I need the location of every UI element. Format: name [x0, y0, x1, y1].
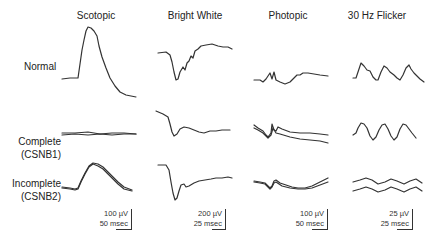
scale-bar-scotopic-time: 50 msec: [100, 219, 128, 229]
scale-bar-flicker-horizontal: [397, 229, 413, 230]
scale-bar-flicker-vertical: [412, 209, 413, 229]
scale-bar-bright-white-time: 25 msec: [194, 219, 222, 229]
trace-complete-photopic-b: [254, 128, 328, 143]
scale-bar-bright-white-vertical: [225, 209, 226, 229]
scale-bar-photopic-amplitude: 100 µV: [296, 209, 324, 219]
trace-normal-bright-white: [158, 44, 232, 80]
scale-bar-scotopic-vertical: [131, 209, 132, 229]
trace-complete-bright-white: [156, 111, 230, 136]
scale-bar-flicker-time: 25 msec: [381, 219, 409, 229]
trace-incomplete-bright-white: [158, 165, 232, 200]
scale-bar-scotopic: 100 µV 50 msec: [100, 209, 128, 229]
scale-bar-flicker: 25 µV 25 msec: [381, 209, 409, 229]
scale-bar-flicker-amplitude: 25 µV: [381, 209, 409, 219]
trace-incomplete-scotopic-b: [62, 164, 132, 191]
scale-bar-photopic-vertical: [327, 209, 328, 229]
trace-complete-flicker: [353, 123, 416, 140]
trace-incomplete-flicker-a: [353, 178, 422, 184]
scale-bar-bright-white-horizontal: [212, 229, 226, 230]
scale-bar-bright-white-amplitude: 200 µV: [194, 209, 222, 219]
trace-normal-photopic: [254, 72, 328, 84]
scale-bar-photopic-horizontal: [312, 229, 328, 230]
trace-complete-scotopic-b: [62, 134, 136, 135]
trace-normal-flicker: [353, 63, 424, 82]
trace-incomplete-flicker-b: [353, 187, 422, 192]
scale-bar-bright-white: 200 µV 25 msec: [194, 209, 222, 229]
trace-normal-scotopic: [62, 27, 136, 97]
trace-incomplete-scotopic-a: [62, 163, 132, 190]
scale-bar-scotopic-horizontal: [116, 229, 132, 230]
scale-bar-photopic: 100 µV 50 msec: [296, 209, 324, 229]
scale-bar-scotopic-amplitude: 100 µV: [100, 209, 128, 219]
scale-bar-photopic-time: 50 msec: [296, 219, 324, 229]
erg-traces: [0, 0, 437, 240]
